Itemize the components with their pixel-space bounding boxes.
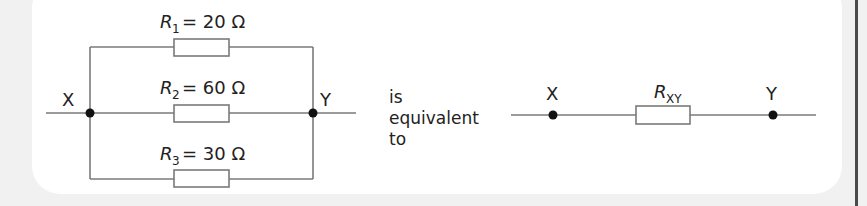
svg-text:= 20 Ω: = 20 Ω	[182, 11, 245, 32]
word-equivalent: equivalent	[389, 108, 469, 129]
svg-text:XY: XY	[666, 92, 682, 106]
svg-text:R: R	[160, 77, 173, 98]
r1-label: R 1 = 20 Ω	[160, 11, 245, 36]
word-is: is	[389, 87, 469, 108]
r2-label: R 2 = 60 Ω	[160, 77, 245, 102]
node-y-label: Y	[319, 89, 332, 110]
equiv-node-y-label: Y	[765, 83, 778, 104]
node-y-dot	[309, 109, 318, 118]
r3-label: R 3 = 30 Ω	[160, 143, 245, 168]
svg-text:R: R	[160, 11, 173, 32]
equiv-node-y-dot	[769, 111, 778, 120]
svg-text:= 30 Ω: = 30 Ω	[182, 143, 245, 164]
rxy-label: R XY	[654, 81, 682, 106]
resistor-r2	[174, 105, 229, 122]
equivalence-text: is equivalent to	[389, 87, 469, 150]
equiv-node-x-dot	[549, 111, 558, 120]
svg-text:1: 1	[172, 22, 180, 36]
resistor-r1	[174, 39, 229, 56]
equiv-node-x-label: X	[546, 83, 558, 104]
svg-text:2: 2	[172, 88, 180, 102]
svg-text:R: R	[654, 81, 667, 102]
svg-text:R: R	[160, 143, 173, 164]
node-x-dot	[86, 109, 95, 118]
word-to: to	[389, 129, 469, 150]
svg-text:3: 3	[172, 154, 180, 168]
resistor-rxy	[636, 106, 690, 124]
node-x-label: X	[62, 89, 74, 110]
svg-text:= 60 Ω: = 60 Ω	[182, 77, 245, 98]
resistor-r3	[174, 170, 229, 187]
